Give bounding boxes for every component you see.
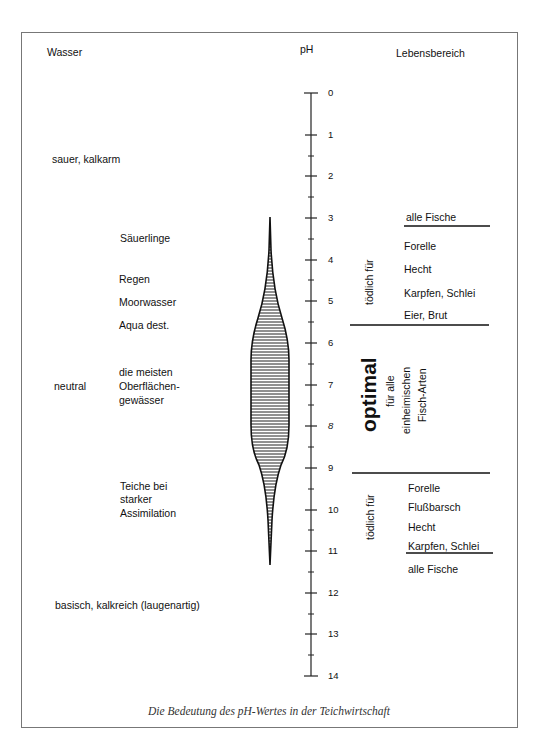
tick-label: 8 — [328, 421, 333, 431]
tick-label: 6 — [328, 338, 333, 348]
water-neutral: neutral — [54, 380, 86, 392]
water-moorwasser: Moorwasser — [119, 296, 176, 308]
tick-label: 10 — [328, 505, 339, 515]
tick-label: 3 — [328, 213, 333, 223]
tick-label: 5 — [328, 296, 333, 306]
tick-label: 9 — [328, 463, 333, 473]
water-saeuerlinge: Säuerlinge — [120, 232, 170, 244]
tick-label: 11 — [328, 546, 338, 556]
tick-label: 13 — [328, 629, 339, 639]
alk-item: Forelle — [408, 482, 440, 494]
ph-scale-graphic — [0, 0, 538, 748]
optimal-sub-line2: einheimischen — [400, 367, 412, 434]
water-distribution-shape — [251, 217, 289, 565]
water-surface-line3: gewässer — [119, 394, 164, 406]
water-surface-line1: die meisten — [119, 366, 173, 378]
optimal-label: optimal — [358, 357, 380, 432]
tick-label: 1 — [328, 130, 333, 140]
alk-item: Karpfen, Schlei — [408, 540, 479, 552]
tick-label: 14 — [328, 671, 339, 681]
alk-item: alle Fische — [408, 563, 458, 575]
acid-item: Karpfen, Schlei — [404, 287, 475, 299]
tick-label: 0 — [328, 88, 333, 98]
acid-lethal-label: tödlich für — [363, 259, 375, 305]
alk-item: Flußbarsch — [408, 501, 461, 513]
alk-lethal-label: tödlich für — [364, 494, 376, 540]
acid-item: Hecht — [404, 263, 431, 275]
tick-label: 4 — [328, 255, 333, 265]
acid-item: Eier, Brut — [404, 309, 447, 321]
water-teiche-line3: Assimilation — [120, 507, 176, 519]
acid-item: alle Fische — [406, 211, 456, 223]
water-teiche-line1: Teiche bei — [120, 480, 167, 492]
water-teiche-line2: starker — [120, 493, 152, 505]
optimal-sub-line1: für alle — [384, 375, 396, 407]
acid-item: Forelle — [404, 240, 436, 252]
tick-label: 2 — [328, 171, 333, 181]
water-basisch: basisch, kalkreich (laugenartig) — [55, 599, 200, 611]
water-surface-line2: Oberflächen- — [119, 380, 180, 392]
tick-label: 12 — [328, 588, 339, 598]
alk-item: Hecht — [408, 521, 435, 533]
water-aqua-dest: Aqua dest. — [119, 319, 169, 331]
water-regen: Regen — [119, 273, 150, 285]
water-sauer: sauer, kalkarm — [52, 153, 120, 165]
tick-label: 7 — [328, 380, 333, 390]
optimal-sub-line3: Fisch-Arten — [416, 368, 428, 422]
figure-caption: Die Bedeutung des pH-Wertes in der Teich… — [0, 705, 538, 717]
